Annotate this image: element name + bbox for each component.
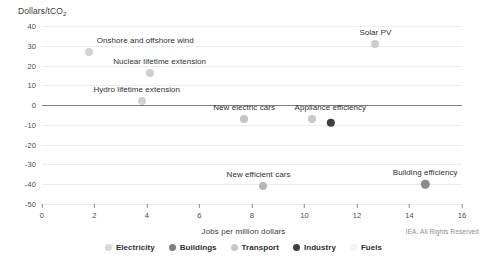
x-axis-tick-labels: 0246810121416	[42, 204, 462, 228]
x-axis-tick-mark	[42, 204, 43, 208]
data-point-label: Solar PV	[359, 27, 391, 36]
x-axis-tick-label: 4	[145, 211, 149, 220]
data-point-label: Building efficiency	[393, 168, 458, 177]
x-axis-tick-mark	[409, 204, 410, 208]
x-axis-tick-mark	[199, 204, 200, 208]
x-axis-tick-mark	[147, 204, 148, 208]
data-point-label: Nuclear lifetime extension	[113, 57, 206, 66]
gridline	[42, 145, 462, 146]
legend-item-label: Electricity	[116, 243, 155, 252]
x-axis-tick-label: 10	[300, 211, 309, 220]
x-axis-tick-mark	[356, 204, 357, 208]
x-axis-tick: 4	[145, 204, 149, 220]
y-axis-title-text: Dollars/tCO	[18, 6, 63, 16]
y-axis-tick-label: -40	[14, 180, 36, 189]
gridline	[42, 125, 462, 126]
chart-legend: ElectricityBuildingsTransportIndustryFue…	[0, 243, 487, 252]
legend-item-label: Industry	[304, 243, 336, 252]
x-axis-tick-label: 14	[405, 211, 414, 220]
y-axis-tick-label: -20	[14, 140, 36, 149]
x-axis-tick-label: 6	[197, 211, 201, 220]
legend-swatch-icon	[169, 244, 176, 251]
data-point[interactable]	[146, 69, 154, 77]
y-axis-tick-label: 30	[14, 41, 36, 50]
x-axis-tick: 0	[40, 204, 44, 220]
data-point[interactable]	[371, 40, 379, 48]
legend-item-label: Fuels	[361, 243, 382, 252]
y-axis-tick-label: 0	[14, 101, 36, 110]
gridline	[42, 164, 462, 165]
plot-area: Onshore and offshore windNuclear lifetim…	[42, 26, 462, 204]
legend-item-label: Buildings	[180, 243, 217, 252]
y-axis-tick-label: 40	[14, 22, 36, 31]
y-axis-tick-label: -50	[14, 200, 36, 209]
x-axis-tick: 2	[92, 204, 96, 220]
y-axis-tick-labels: 403020100-10-20-30-40-50	[0, 26, 36, 204]
x-axis-tick: 6	[197, 204, 201, 220]
legend-item[interactable]: Buildings	[169, 243, 217, 252]
data-point[interactable]	[421, 180, 429, 188]
data-point[interactable]	[240, 115, 248, 123]
data-point-label: New electric cars	[213, 102, 275, 111]
legend-swatch-icon	[293, 244, 300, 251]
x-axis-tick: 12	[353, 204, 362, 220]
legend-item[interactable]: Fuels	[350, 243, 382, 252]
data-point-label: Appliance efficiency	[295, 102, 367, 111]
x-axis-tick-mark	[304, 204, 305, 208]
data-point[interactable]	[138, 97, 146, 105]
y-axis-title-subscript: 2	[63, 10, 67, 17]
y-axis-tick-label: -30	[14, 160, 36, 169]
data-point-label: Onshore and offshore wind	[97, 35, 194, 44]
legend-swatch-icon	[350, 244, 357, 251]
x-axis-tick-label: 2	[92, 211, 96, 220]
x-axis-tick: 8	[250, 204, 254, 220]
scatter-chart: Dollars/tCO2 403020100-10-20-30-40-50 On…	[0, 0, 487, 266]
x-axis-tick: 16	[458, 204, 467, 220]
legend-swatch-icon	[231, 244, 238, 251]
x-axis-tick-label: 8	[250, 211, 254, 220]
gridline	[42, 46, 462, 47]
x-axis-tick-label: 12	[353, 211, 362, 220]
legend-swatch-icon	[105, 244, 112, 251]
data-point-label: New efficient cars	[227, 170, 291, 179]
gridline	[42, 66, 462, 67]
x-axis-tick-mark	[461, 204, 462, 208]
legend-item[interactable]: Industry	[293, 243, 336, 252]
x-axis-tick: 10	[300, 204, 309, 220]
y-axis-tick-label: -10	[14, 120, 36, 129]
data-point[interactable]	[259, 182, 267, 190]
x-axis-tick-label: 16	[458, 211, 467, 220]
data-point[interactable]	[85, 48, 93, 56]
x-axis-tick-mark	[252, 204, 253, 208]
y-axis-tick-label: 20	[14, 61, 36, 70]
gridline	[42, 26, 462, 27]
copyright-notice: IEA. All Rights Reserved	[406, 228, 479, 235]
gridline	[42, 184, 462, 185]
data-point[interactable]	[308, 115, 316, 123]
legend-item[interactable]: Transport	[231, 243, 279, 252]
y-axis-title: Dollars/tCO2	[18, 6, 67, 16]
x-axis-tick: 14	[405, 204, 414, 220]
y-axis-tick-label: 10	[14, 81, 36, 90]
legend-item[interactable]: Electricity	[105, 243, 155, 252]
x-axis-tick-label: 0	[40, 211, 44, 220]
x-axis-tick-mark	[94, 204, 95, 208]
legend-item-label: Transport	[242, 243, 279, 252]
data-point-label: Hydro lifetime extension	[93, 85, 180, 94]
